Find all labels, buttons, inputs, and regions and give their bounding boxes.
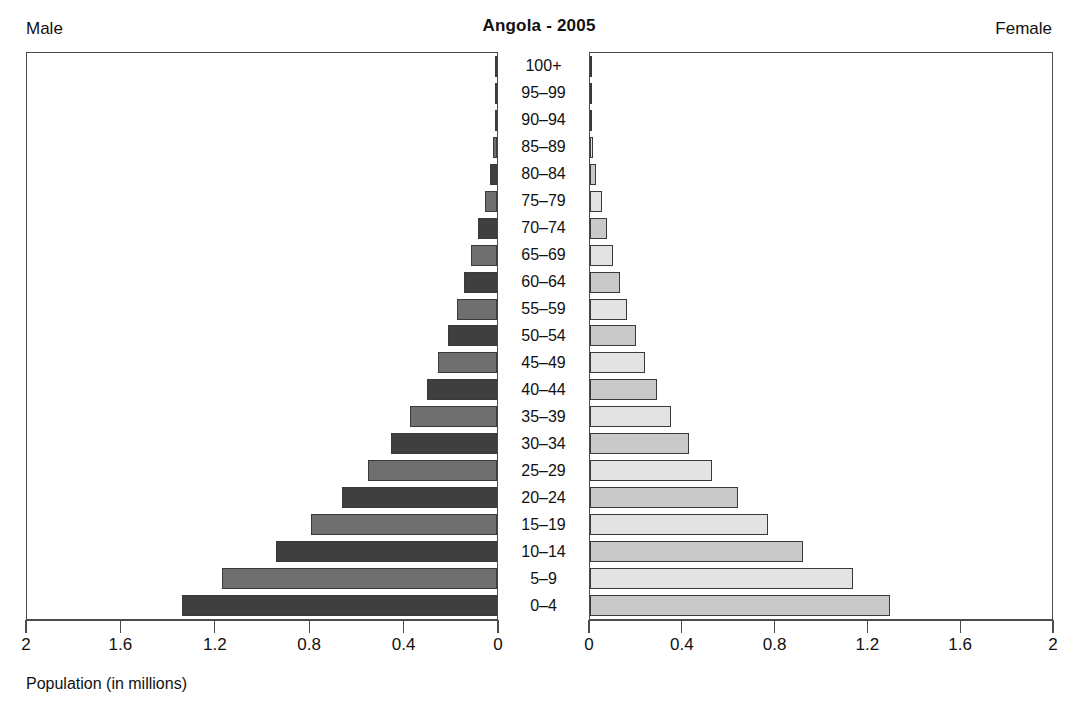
bar-row	[590, 134, 1052, 161]
age-group-label: 50–54	[498, 322, 589, 349]
bar-row	[590, 403, 1052, 430]
axis-tick	[214, 620, 215, 633]
bar-female-75-79	[590, 191, 602, 212]
axis-tick-label: 0	[584, 636, 593, 654]
bar-row	[27, 592, 497, 619]
age-group-label: 85–89	[498, 133, 589, 160]
bar-female-40-44	[590, 379, 657, 400]
chart-title: Angola - 2005	[0, 16, 1078, 35]
bar-row	[590, 538, 1052, 565]
bar-row	[27, 538, 497, 565]
axis-tick-label: 0.4	[392, 636, 416, 654]
bar-female-45-49	[590, 352, 645, 373]
axis-tick-label: 2	[1048, 636, 1057, 654]
axis-tick-label: 2	[21, 636, 30, 654]
bar-row	[27, 457, 497, 484]
male-x-axis	[26, 620, 498, 634]
age-group-label: 30–34	[498, 431, 589, 458]
axis-tick	[403, 620, 404, 633]
age-group-label: 45–49	[498, 350, 589, 377]
age-group-label: 20–24	[498, 485, 589, 512]
bar-male-15-19	[311, 514, 497, 535]
bar-female-95-99	[590, 83, 592, 104]
age-group-label: 0–4	[498, 593, 589, 620]
bar-row	[27, 349, 497, 376]
bar-male-45-49	[438, 352, 497, 373]
bar-female-35-39	[590, 406, 671, 427]
bar-female-50-54	[590, 325, 636, 346]
axis-tick-label: 1.2	[856, 636, 880, 654]
bar-row	[590, 161, 1052, 188]
age-group-label: 100+	[498, 52, 589, 79]
axis-tick	[960, 620, 961, 633]
bar-row	[590, 511, 1052, 538]
bar-row	[590, 376, 1052, 403]
bar-male-40-44	[427, 379, 498, 400]
axis-tick	[1052, 620, 1053, 633]
bar-female-0-4	[590, 595, 890, 616]
age-group-label: 5–9	[498, 566, 589, 593]
bar-row	[590, 107, 1052, 134]
bar-male-30-34	[391, 433, 497, 454]
axis-tick	[588, 620, 589, 633]
bar-row	[27, 376, 497, 403]
bar-row	[590, 188, 1052, 215]
axis-tick-label: 0.4	[670, 636, 694, 654]
bar-female-85-89	[590, 137, 593, 158]
bar-row	[590, 242, 1052, 269]
bar-row	[590, 296, 1052, 323]
bar-male-90-94	[495, 110, 497, 131]
axis-tick	[867, 620, 868, 633]
bar-female-20-24	[590, 487, 738, 508]
bar-row	[590, 80, 1052, 107]
bar-row	[27, 323, 497, 350]
bar-row	[590, 269, 1052, 296]
axis-tick-label: 1.6	[109, 636, 133, 654]
axis-tick-label: 0.8	[297, 636, 321, 654]
bar-row	[27, 511, 497, 538]
age-group-label: 25–29	[498, 458, 589, 485]
axis-tick	[309, 620, 310, 633]
age-group-label: 70–74	[498, 214, 589, 241]
bar-male-10-14	[276, 541, 497, 562]
axis-tick-label: 1.2	[203, 636, 227, 654]
bar-row	[27, 80, 497, 107]
bar-male-65-69	[471, 245, 497, 266]
bar-male-20-24	[342, 487, 497, 508]
female-x-axis	[589, 620, 1053, 634]
bar-row	[27, 565, 497, 592]
age-group-label: 90–94	[498, 106, 589, 133]
bar-female-90-94	[590, 110, 592, 131]
bar-row	[590, 349, 1052, 376]
female-axis-line	[589, 620, 1053, 621]
axis-tick	[497, 620, 498, 633]
bar-male-0-4	[182, 595, 497, 616]
bar-row	[590, 457, 1052, 484]
axis-tick-label: 1.6	[948, 636, 972, 654]
age-group-label: 35–39	[498, 404, 589, 431]
bar-male-55-59	[457, 299, 497, 320]
age-group-label: 65–69	[498, 241, 589, 268]
bar-female-30-34	[590, 433, 689, 454]
bar-male-35-39	[410, 406, 497, 427]
bar-female-65-69	[590, 245, 613, 266]
bar-row	[590, 323, 1052, 350]
age-group-label: 10–14	[498, 539, 589, 566]
axis-tick	[120, 620, 121, 633]
bar-row	[27, 296, 497, 323]
age-group-label: 60–64	[498, 268, 589, 295]
bar-row	[27, 215, 497, 242]
bar-row	[27, 188, 497, 215]
bar-row	[27, 269, 497, 296]
bar-female-100+	[590, 56, 592, 77]
bar-female-15-19	[590, 514, 768, 535]
age-group-label: 80–84	[498, 160, 589, 187]
female-tick-labels: 00.40.81.21.62	[589, 636, 1053, 658]
bar-row	[590, 592, 1052, 619]
female-side-label: Female	[995, 20, 1052, 37]
bar-male-5-9	[222, 568, 497, 589]
axis-tick	[774, 620, 775, 633]
bar-row	[590, 565, 1052, 592]
bar-male-100+	[495, 56, 497, 77]
male-tick-labels: 21.61.20.80.40	[26, 636, 498, 658]
